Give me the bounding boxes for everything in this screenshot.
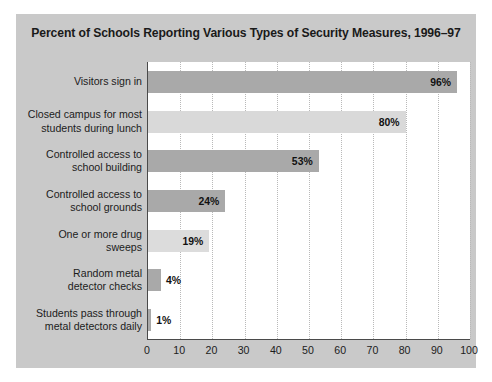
bar-value-label: 80% — [379, 116, 400, 127]
category-label: Visitors sign in — [16, 75, 142, 88]
bar-value-label: 96% — [430, 76, 451, 87]
x-tick-label: 70 — [366, 344, 378, 356]
bar — [148, 71, 457, 93]
category-label: Random metaldetector checks — [16, 267, 142, 293]
bar-row: 53% — [148, 150, 470, 172]
x-tick-label: 10 — [173, 344, 185, 356]
bar-value-label: 53% — [292, 156, 313, 167]
x-tick-label: 90 — [431, 344, 443, 356]
category-labels: Visitors sign inClosed campus for mostst… — [16, 62, 142, 340]
category-label-line: Controlled access to — [16, 188, 142, 201]
category-label-line: Random metal — [16, 267, 142, 280]
x-tick-label: 50 — [302, 344, 314, 356]
x-axis-tick-labels: 0102030405060708090100 — [147, 344, 470, 364]
category-label-line: sweeps — [16, 241, 142, 254]
category-label-line: metal detectors daily — [16, 320, 142, 333]
category-label: Closed campus for moststudents during lu… — [16, 108, 142, 134]
x-tick-label: 100 — [460, 344, 478, 356]
x-tick-label: 20 — [205, 344, 217, 356]
chart-title: Percent of Schools Reporting Various Typ… — [16, 26, 476, 40]
category-label-line: Students pass through — [16, 307, 142, 320]
bar — [148, 269, 161, 291]
category-label-line: Controlled access to — [16, 148, 142, 161]
bars-layer: 96%80%53%24%19%4%1% — [148, 62, 470, 340]
chart-panel: Percent of Schools Reporting Various Typ… — [16, 14, 476, 368]
bar — [148, 309, 151, 331]
bar-value-label: 24% — [198, 196, 219, 207]
bar-value-label: 4% — [166, 275, 181, 286]
category-label-line: Visitors sign in — [16, 75, 142, 88]
x-tick-label: 40 — [270, 344, 282, 356]
bar-row: 96% — [148, 71, 470, 93]
category-label: Controlled access toschool building — [16, 148, 142, 174]
category-label-line: Closed campus for most — [16, 108, 142, 121]
category-label: One or more drugsweeps — [16, 228, 142, 254]
x-tick-label: 30 — [238, 344, 250, 356]
category-label: Students pass throughmetal detectors dai… — [16, 307, 142, 333]
bar-value-label: 19% — [182, 235, 203, 246]
bar-row: 4% — [148, 269, 470, 291]
category-label-line: school building — [16, 161, 142, 174]
x-tick-label: 0 — [144, 344, 150, 356]
bar-row: 1% — [148, 309, 470, 331]
figure-root: Percent of Schools Reporting Various Typ… — [0, 0, 492, 382]
bar-value-label: 1% — [156, 315, 171, 326]
bar-row: 24% — [148, 190, 470, 212]
bar-row: 19% — [148, 230, 470, 252]
category-label-line: students during lunch — [16, 122, 142, 135]
gridline — [470, 62, 471, 339]
category-label-line: school grounds — [16, 201, 142, 214]
x-tick-label: 60 — [334, 344, 346, 356]
bar — [148, 111, 406, 133]
x-tick-label: 80 — [399, 344, 411, 356]
category-label: Controlled access toschool grounds — [16, 188, 142, 214]
bar-row: 80% — [148, 111, 470, 133]
category-label-line: detector checks — [16, 280, 142, 293]
category-label-line: One or more drug — [16, 228, 142, 241]
